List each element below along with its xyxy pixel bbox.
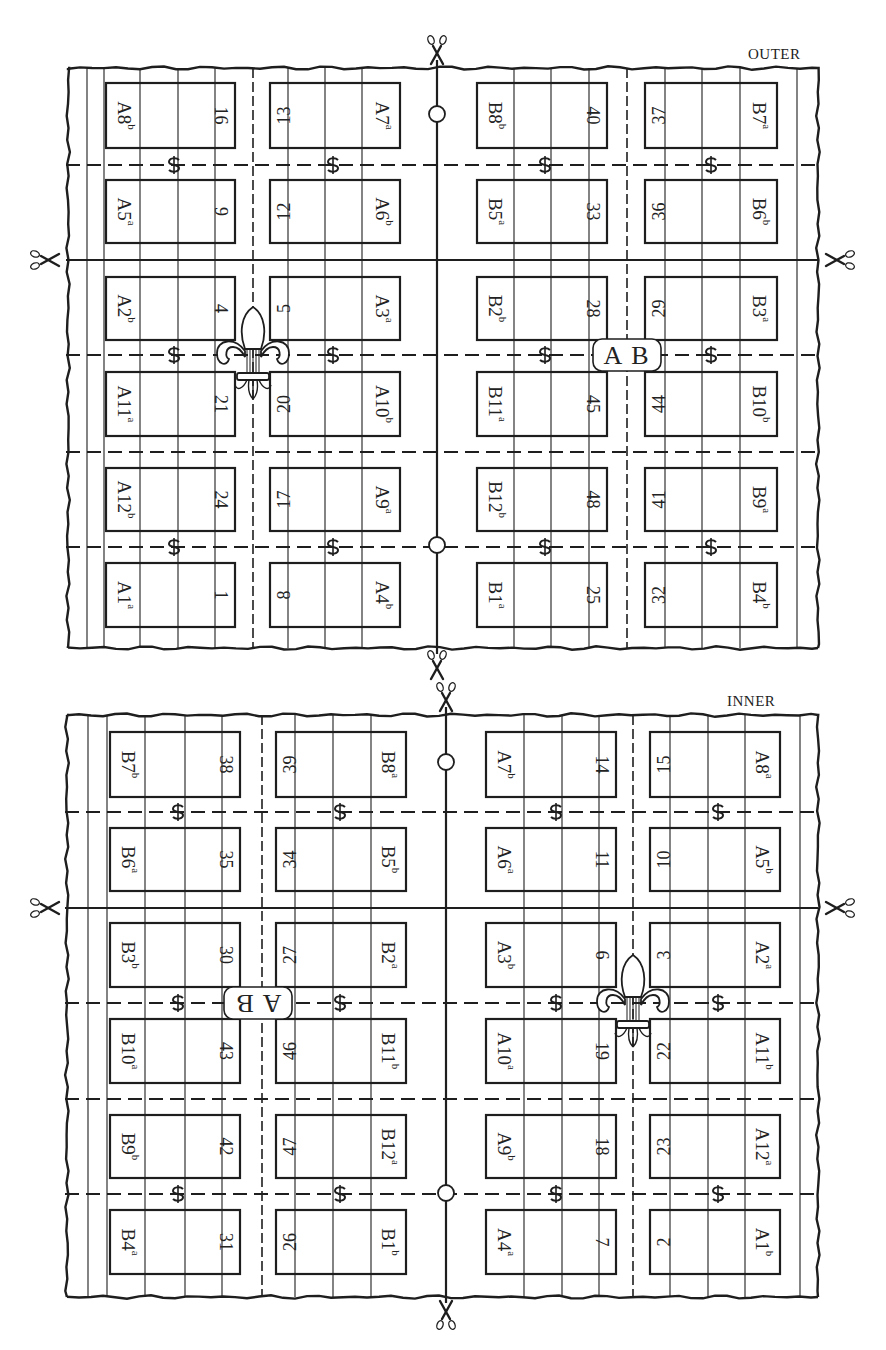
page-number: 10 — [654, 851, 674, 869]
page-box: A6a11 — [486, 828, 616, 891]
page-signature-sup: b — [130, 773, 142, 779]
page-number: 22 — [654, 1042, 674, 1060]
page-signature-sup: a — [506, 1065, 518, 1070]
scissors-icon — [436, 1301, 457, 1330]
page-signature: A2b — [114, 294, 139, 323]
register-circle-icon — [429, 106, 445, 122]
sheet-edge-top — [67, 713, 818, 717]
page-number: 8 — [274, 591, 294, 600]
page-box: A7b14 — [486, 732, 616, 797]
page-number: 2 — [654, 1238, 674, 1247]
page-signature-sup: b — [761, 417, 773, 423]
page-number: 20 — [274, 395, 294, 413]
page-signature-sup: a — [764, 774, 776, 779]
sheet-outer: A8b16A7a13B8b40B7a37A5a9A6b12B5a33B6b36A… — [30, 35, 856, 679]
fleur-center-petal — [622, 955, 645, 997]
page-box: A2b4 — [106, 277, 235, 340]
page-signature: B9a — [749, 486, 774, 513]
page-signature-sup: a — [764, 964, 776, 969]
page-number: 35 — [216, 851, 236, 869]
page-number: 47 — [280, 1138, 300, 1156]
page-box: B3b30 — [110, 923, 240, 987]
page-number: 41 — [649, 491, 669, 509]
page-signature: A3b — [494, 941, 519, 970]
fleur-left-petal — [217, 341, 245, 363]
page-signature-sup: b — [497, 513, 509, 519]
page-signature-sup: b — [764, 1251, 776, 1257]
page-number: 18 — [592, 1138, 612, 1156]
page-box: A6b12 — [270, 180, 400, 243]
page-signature-sup: a — [761, 317, 773, 322]
page-signature: A12a — [752, 1128, 777, 1166]
page-box: A5a9 — [106, 180, 235, 243]
page-signature: A11b — [752, 1032, 777, 1070]
scissors-handle — [448, 682, 457, 693]
page-signature-sup: a — [761, 124, 773, 129]
page-signature: A12b — [114, 480, 139, 519]
page-box: B5a33 — [477, 180, 607, 243]
page-signature: B4a — [118, 1228, 143, 1255]
page-signature: A7b — [494, 750, 519, 779]
scissors-blade — [41, 254, 59, 264]
page-number: 27 — [280, 946, 300, 964]
page-box: A3a5 — [270, 277, 400, 340]
page-box: A11a21 — [106, 372, 235, 436]
page-signature: A11a — [114, 386, 139, 423]
page-signature: A6b — [372, 197, 397, 226]
page-signature: B7b — [118, 751, 143, 779]
page-signature: B7a — [749, 102, 774, 129]
page-signature: A4a — [494, 1228, 519, 1256]
page-signature: B9b — [118, 1133, 143, 1161]
page-box: A10a19 — [486, 1019, 616, 1083]
page-number: 3 — [654, 951, 674, 960]
page-signature-sup: a — [384, 318, 396, 323]
page-number: 29 — [649, 300, 669, 318]
page-number: 30 — [216, 946, 236, 964]
page-signature: A9a — [372, 485, 397, 513]
page-signature-sup: b — [764, 1064, 776, 1070]
scissors-handle — [30, 262, 41, 271]
page-signature-sup: b — [506, 1155, 518, 1161]
page-number: 23 — [654, 1138, 674, 1156]
page-number: 48 — [583, 491, 603, 509]
scissors-blade — [826, 254, 844, 264]
page-signature-sup: a — [384, 125, 396, 130]
page-number: 15 — [654, 756, 674, 774]
page-number: 5 — [274, 304, 294, 313]
page-signature: B8a — [378, 751, 403, 778]
page-number: 24 — [211, 491, 231, 509]
scissors-icon — [826, 250, 855, 271]
page-signature: B6b — [749, 198, 774, 226]
imposition-diagram: A8b16A7a13B8b40B7a37A5a9A6b12B5a33B6b36A… — [0, 0, 886, 1350]
page-signature-sup: a — [497, 220, 509, 225]
page-signature: A3a — [372, 294, 397, 322]
page-signature: A1b — [752, 1228, 777, 1257]
page-signature-sup: b — [497, 317, 509, 323]
page-number: 45 — [583, 395, 603, 413]
scissors-icon — [30, 250, 59, 271]
scissors-blade — [433, 661, 443, 679]
register-circle-icon — [429, 537, 445, 553]
page-number: 21 — [211, 395, 231, 413]
sheet-inner: B7b38B8a39A7b14A8a15B6a35B5b34A6a11A5b10… — [30, 682, 856, 1331]
page-number: 36 — [649, 203, 669, 221]
scissors-handle — [845, 910, 856, 919]
fleur-de-lis-icon — [597, 955, 669, 1047]
page-box: B9b42 — [110, 1115, 240, 1178]
page-signature: B10a — [118, 1033, 143, 1070]
scissors-blade — [440, 1301, 450, 1319]
page-signature-sup: b — [390, 868, 402, 874]
scissors-handle — [448, 1320, 457, 1331]
page-signature: A5b — [752, 845, 777, 874]
page-signature-sup: a — [390, 773, 402, 778]
sheet-edge-right — [816, 715, 820, 1297]
page-signature-sup: a — [126, 418, 138, 423]
page-box: B12b48 — [477, 468, 607, 531]
scissors-blade — [442, 1301, 452, 1319]
scissors-blade — [41, 256, 59, 266]
register-circle-icon — [438, 1185, 454, 1201]
page-signature-sup: b — [506, 773, 518, 779]
page-box: A3b6 — [486, 923, 616, 987]
page-box: A12b24 — [106, 468, 235, 531]
scissors-blade — [826, 256, 844, 266]
